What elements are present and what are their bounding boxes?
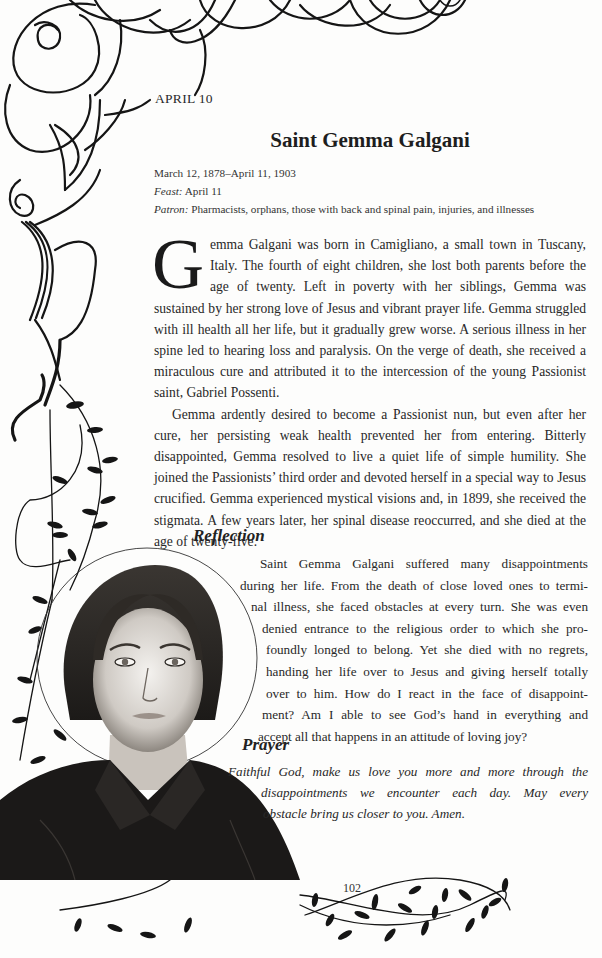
patron-value: Pharmacists, orphans, those with back an… xyxy=(191,203,534,215)
date-label: APRIL 10 xyxy=(155,91,213,107)
prayer-line: disappointments we encounter each day. M… xyxy=(261,782,588,803)
reflection-line: nal illness, she faced obstacles at ever… xyxy=(251,596,588,618)
paragraph-text: emma Galgani was born in Camigliano, a s… xyxy=(154,237,586,400)
book-page: APRIL 10 Saint Gemma Galgani March 12, 1… xyxy=(0,0,602,958)
page-title: Saint Gemma Galgani xyxy=(140,128,600,153)
reflection-line: accept all that happens in an attitude o… xyxy=(258,726,588,748)
reflection-line: over to him. How do I react in the face … xyxy=(266,683,588,705)
prayer-line: Faithful God, make us love you more and … xyxy=(228,761,588,782)
prayer-heading: Prayer xyxy=(242,735,289,755)
patron-line: Patron: Pharmacists, orphans, those with… xyxy=(154,200,594,218)
reflection-line: during her life. From the death of close… xyxy=(240,575,588,597)
feast-value: April 11 xyxy=(185,185,222,197)
page-number: 102 xyxy=(343,881,361,896)
feast-line: Feast: April 11 xyxy=(154,182,594,200)
reflection-line: Saint Gemma Galgani suffered many disapp… xyxy=(260,553,588,575)
biography-paragraph-1: Gemma Galgani was born in Camigliano, a … xyxy=(154,234,586,404)
prayer-line: obstacle bring us closer to you. Amen. xyxy=(263,803,588,824)
patron-label: Patron: xyxy=(154,203,188,215)
saint-details: March 12, 1878–April 11, 1903 Feast: Apr… xyxy=(154,164,594,218)
reflection-line: foundly longed to belong. Yet she died w… xyxy=(266,639,588,661)
reflection-line: handing her life over to Jesus and givin… xyxy=(266,661,588,683)
biography: Gemma Galgani was born in Camigliano, a … xyxy=(154,234,586,552)
reflection-text: Saint Gemma Galgani suffered many disapp… xyxy=(230,553,588,747)
reflection-line: ment? Am I able to see God’s hand in eve… xyxy=(262,704,588,726)
reflection-line: denied entrance to the religious order t… xyxy=(262,618,588,640)
drop-cap: G xyxy=(152,236,204,292)
life-dates: March 12, 1878–April 11, 1903 xyxy=(154,164,594,182)
reflection-heading: Reflection xyxy=(193,526,265,546)
feast-label: Feast: xyxy=(154,185,183,197)
prayer-text: Faithful God, make us love you more and … xyxy=(228,761,588,824)
